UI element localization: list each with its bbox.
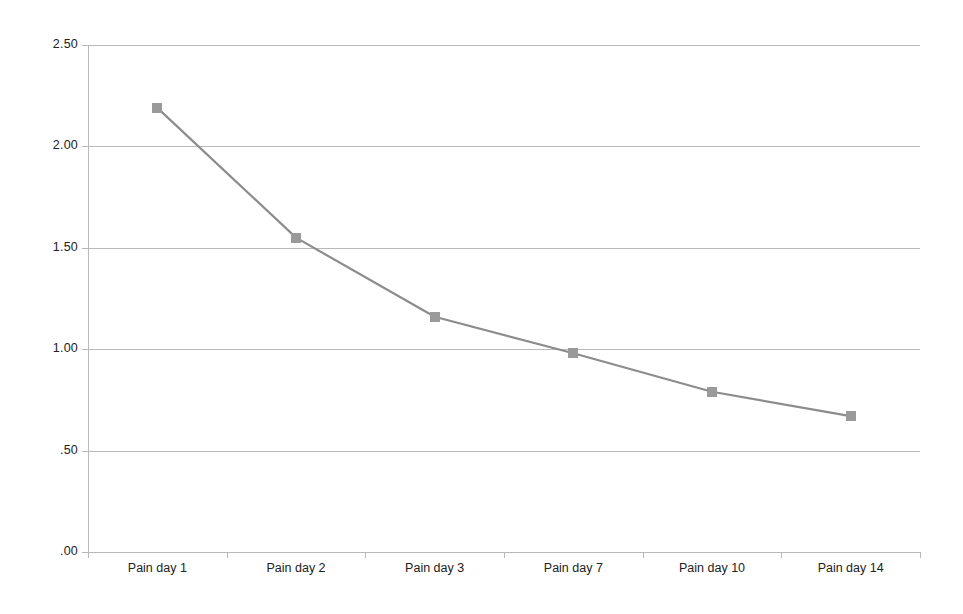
gridline-1-50: [88, 248, 920, 249]
y-axis-label-0-50: .50: [8, 444, 78, 457]
x-axis-label-pain-day-10: Pain day 10: [643, 562, 782, 575]
x-tick-mark-5: [781, 552, 782, 558]
x-axis-label-pain-day-3: Pain day 3: [365, 562, 504, 575]
data-point-marker: [291, 233, 301, 243]
plot-area: [88, 45, 920, 552]
x-tick-mark-3: [504, 552, 505, 558]
gridline-2-00: [88, 146, 920, 147]
x-tick-mark-6: [920, 552, 921, 558]
y-tick-mark-4: [82, 451, 89, 452]
x-tick-mark-4: [643, 552, 644, 558]
x-axis-label-pain-day-14: Pain day 14: [781, 562, 920, 575]
gridline-0-50: [88, 451, 920, 452]
y-axis-label-0-00: .00: [8, 545, 78, 558]
gridline-1-00: [88, 349, 920, 350]
data-point-marker: [152, 103, 162, 113]
y-axis-label-1-00: 1.00: [8, 342, 78, 355]
gridline-2-50: [88, 45, 920, 46]
data-point-marker: [707, 387, 717, 397]
y-tick-mark-3: [82, 349, 89, 350]
data-point-marker: [430, 312, 440, 322]
x-tick-mark-2: [365, 552, 366, 558]
y-axis-line: [88, 45, 89, 553]
data-point-marker: [568, 348, 578, 358]
x-axis-label-pain-day-1: Pain day 1: [88, 562, 227, 575]
y-axis-label-1-50: 1.50: [8, 241, 78, 254]
x-tick-mark-0: [88, 552, 89, 558]
y-axis-label-2-50: 2.50: [8, 38, 78, 51]
data-point-marker: [846, 411, 856, 421]
y-axis-label-2-00: 2.00: [8, 139, 78, 152]
x-tick-mark-1: [227, 552, 228, 558]
x-axis-label-pain-day-2: Pain day 2: [227, 562, 366, 575]
x-axis-label-pain-day-7: Pain day 7: [504, 562, 643, 575]
y-tick-mark-0: [82, 45, 89, 46]
y-tick-mark-1: [82, 146, 89, 147]
line-chart: 2.50 2.00 1.50 1.00 .50 .00 Pain day 1 P…: [0, 0, 963, 614]
y-tick-mark-2: [82, 248, 89, 249]
